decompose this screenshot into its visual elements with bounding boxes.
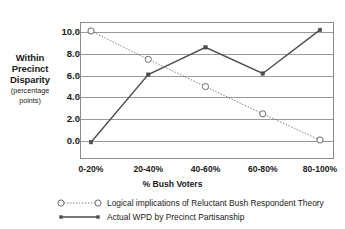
legend-item-label: Logical implications of Reluctant Bush R… bbox=[107, 198, 324, 208]
legend-marker-icon bbox=[57, 212, 102, 222]
y-axis-tick-mark bbox=[76, 31, 80, 32]
chart-legend: Logical implications of Reluctant Bush R… bbox=[0, 0, 345, 229]
y-axis-tick-mark bbox=[76, 140, 80, 141]
legend-item[interactable]: Actual WPD by Precinct Partisanship bbox=[57, 212, 244, 222]
chart-container: Within Precinct Disparity (percentage po… bbox=[0, 0, 345, 229]
legend-item[interactable]: Logical implications of Reluctant Bush R… bbox=[57, 198, 324, 208]
y-axis-tick-mark bbox=[76, 118, 80, 119]
y-axis-tick-mark bbox=[76, 53, 80, 54]
legend-marker-icon bbox=[57, 198, 102, 208]
y-axis-tick-mark bbox=[76, 96, 80, 97]
y-axis-tick-mark bbox=[76, 75, 80, 76]
legend-item-label: Actual WPD by Precinct Partisanship bbox=[107, 212, 244, 222]
